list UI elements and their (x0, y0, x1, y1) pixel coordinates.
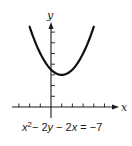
y-axis-ticks (51, 32, 55, 96)
y-axis-label: y (46, 9, 54, 22)
caption-minus-2b: − 2 (53, 121, 72, 133)
caption-minus-2: − 2 (32, 121, 48, 133)
parabola-curve (30, 27, 94, 75)
caption-rhs: = −7 (77, 121, 102, 133)
equation-caption: x2− 2y − 2x = −7 (21, 120, 102, 133)
y-axis-arrow-icon (49, 22, 54, 29)
parabola-graph: x y x2− 2y − 2x = −7 (0, 0, 132, 146)
x-axis-arrow-icon (112, 105, 119, 110)
x-axis-label: x (121, 101, 128, 114)
